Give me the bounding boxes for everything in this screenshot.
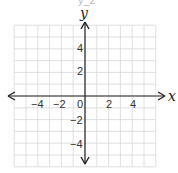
x-tick-label: 2 [106,98,112,110]
y-tick-label: 2 [77,65,83,77]
x-tick-label: −2 [53,98,66,110]
y-tick-label: −2 [70,114,83,126]
y-axis-label: y [79,5,89,21]
x-tick-label: −4 [31,98,44,110]
y-tick-label: −4 [70,138,83,150]
x-tick-label: 0 [77,98,83,110]
coordinate-plane: x y −4 −2 0 2 4 4 2 −2 −4 [0,0,178,173]
x-axis-label: x [168,88,176,104]
y-tick-label: 4 [77,42,83,54]
x-tick-label: 4 [130,98,136,110]
